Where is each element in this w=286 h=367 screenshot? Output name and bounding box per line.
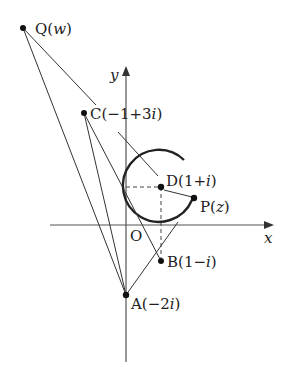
point-Q [20,25,26,31]
label-D: D(1+i) [166,172,217,190]
point-B [158,258,164,264]
point-P [191,195,197,201]
point-C [81,110,87,116]
x-axis-arrow-icon [264,221,274,229]
point-D [158,184,164,190]
label-Q: Q(w) [35,20,72,38]
label-y-axis: y [109,66,119,84]
label-P: P(z) [200,198,230,216]
label-C: C(−1+3i) [90,105,162,123]
label-B: B(1−i) [167,253,217,271]
segment-DP [164,190,192,197]
segment-C-label-to-D [118,132,158,176]
segment-CA [84,113,126,295]
label-origin: O [130,227,142,245]
y-axis-arrow-icon [122,66,130,76]
complex-plane-diagram: Q(w) C(−1+3i) D(1+i) P(z) B(1−i) A(−2i) … [0,0,286,367]
point-A [123,292,129,298]
segment-Q-to-C-label [23,28,96,105]
label-A: A(−2i) [130,295,180,313]
label-x-axis: x [264,229,273,247]
